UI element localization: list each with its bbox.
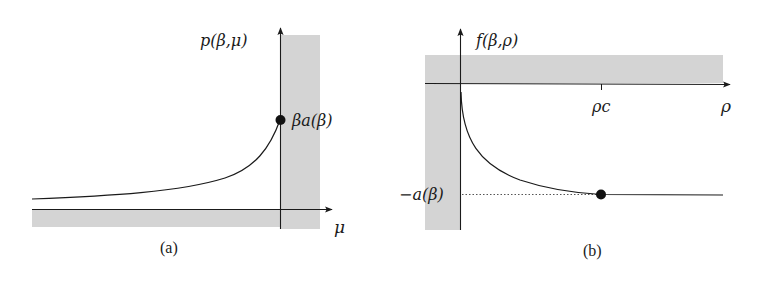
point-marker bbox=[276, 115, 286, 125]
tick-label-rho-c: ρc bbox=[591, 97, 610, 116]
y-axis-label: p(β,μ) bbox=[200, 31, 247, 50]
figure: p(β,μ) βa(β) μ (a) f(β,ρ) ρc ρ −a(β) (b) bbox=[0, 0, 758, 282]
level-label: −a(β) bbox=[399, 185, 444, 204]
caption-a: (a) bbox=[160, 239, 178, 257]
shaded-region-horizontal bbox=[32, 209, 320, 227]
x-axis-label: μ bbox=[334, 217, 345, 237]
shaded-region-vertical bbox=[280, 35, 320, 229]
x-axis bbox=[425, 84, 730, 85]
shaded-region-horizontal bbox=[425, 55, 723, 83]
panel-b: f(β,ρ) ρc ρ −a(β) (b) bbox=[399, 29, 731, 260]
caption-b: (b) bbox=[583, 242, 602, 260]
panel-a: p(β,μ) βa(β) μ (a) bbox=[32, 28, 345, 257]
x-axis-label: ρ bbox=[720, 96, 731, 116]
y-axis-label: f(β,ρ) bbox=[475, 31, 518, 50]
curve-p bbox=[32, 120, 280, 199]
point-marker bbox=[596, 190, 606, 200]
point-label: βa(β) bbox=[291, 111, 333, 130]
